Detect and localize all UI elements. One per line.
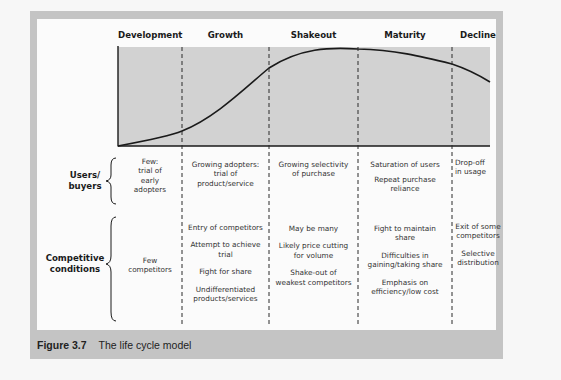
row-label-users-buyers: Users/ buyers bbox=[62, 170, 108, 191]
competitive-growth-cell: Entry of competitors Attempt to achievet… bbox=[182, 223, 269, 303]
users-decline-cell: Drop-offin usage bbox=[452, 158, 499, 177]
users-shakeout-cell: Growing selectivityof purchase bbox=[269, 160, 358, 179]
competitive-shakeout-cell: May be many Likely price cuttingfor volu… bbox=[269, 224, 358, 287]
competitive-brace-icon bbox=[106, 217, 116, 321]
figure-caption: Figure 3.7 The life cycle model bbox=[37, 336, 191, 354]
competitive-decline-cell: Exit of somecompetitors Selectivedistrib… bbox=[452, 222, 504, 268]
competitive-maturity-cell: Fight to maintainshare Difficulties inga… bbox=[358, 224, 452, 296]
figure-title: The life cycle model bbox=[99, 339, 192, 351]
users-growth-cell: Growing adopters:trial of product/servic… bbox=[182, 160, 269, 188]
row-label-competitive-conditions: Competitive conditions bbox=[44, 253, 106, 274]
plot-area bbox=[118, 47, 490, 146]
users-maturity-cell: Saturation of users Repeat purchaserelia… bbox=[358, 160, 452, 194]
competitive-development-cell: Fewcompetitors bbox=[118, 256, 182, 275]
users-development-cell: Few:trial of earlyadopters bbox=[118, 157, 182, 195]
figure-number: Figure 3.7 bbox=[37, 339, 87, 351]
